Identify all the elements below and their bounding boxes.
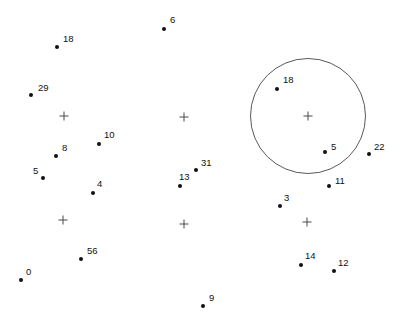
scatter-point-label: 22	[374, 142, 385, 152]
scatter-data-point	[178, 184, 182, 188]
scatter-data-point	[201, 304, 205, 308]
cluster-centroid-plus-icon	[60, 112, 69, 121]
scatter-point-label: 8	[62, 143, 67, 153]
scatter-point-label: 29	[38, 83, 49, 93]
scatter-data-point	[327, 184, 331, 188]
scatter-data-point	[278, 204, 282, 208]
cluster-centroid-plus-icon	[59, 216, 68, 225]
scatter-point-label: 12	[338, 258, 349, 268]
scatter-data-point	[54, 154, 58, 158]
scatter-point-label: 14	[305, 251, 316, 261]
scatter-data-point	[194, 168, 198, 172]
scatter-data-point	[55, 45, 59, 49]
scatter-data-point	[19, 278, 23, 282]
scatter-point-label: 3	[284, 193, 289, 203]
scatter-point-label: 10	[104, 130, 115, 140]
scatter-data-point	[41, 176, 45, 180]
scatter-data-point	[162, 27, 166, 31]
scatter-point-label: 18	[283, 75, 294, 85]
scatter-data-point	[29, 93, 33, 97]
scatter-point-label: 5	[331, 142, 336, 152]
cluster-centroid-plus-icon	[304, 112, 313, 121]
scatter-data-point	[91, 191, 95, 195]
scatter-point-label: 4	[97, 179, 102, 189]
scatter-data-point	[299, 263, 303, 267]
scatter-point-label: 56	[87, 246, 98, 256]
scatter-data-point	[367, 152, 371, 156]
cluster-centroid-plus-icon	[180, 113, 189, 122]
scatter-point-label: 6	[170, 15, 175, 25]
scatter-point-label: 18	[63, 34, 74, 44]
scatter-data-point	[332, 269, 336, 273]
scatter-data-point	[79, 257, 83, 261]
scatter-point-label: 5	[33, 166, 38, 176]
scatter-data-point	[97, 142, 101, 146]
scatter-point-label: 31	[201, 158, 212, 168]
cluster-centroid-plus-icon	[180, 220, 189, 229]
cluster-centroid-plus-icon	[303, 218, 312, 227]
scatter-point-label: 13	[179, 172, 190, 182]
scatter-point-label: 0	[26, 267, 31, 277]
scatter-point-label: 9	[209, 293, 214, 303]
scatter-point-label: 11	[335, 176, 345, 186]
scatter-plot-canvas: 618291810852231511134356141209	[0, 0, 407, 329]
scatter-data-point	[323, 150, 327, 154]
scatter-data-point	[275, 87, 279, 91]
